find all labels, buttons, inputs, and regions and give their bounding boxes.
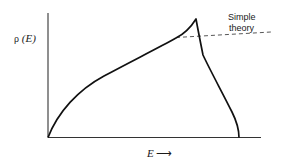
annotation-line-1: Simple	[228, 12, 256, 23]
energy-variable: E	[147, 147, 154, 159]
rho-argument: (E)	[22, 32, 36, 44]
density-curve	[48, 19, 239, 138]
simple-theory-annotation: Simple theory	[228, 12, 256, 34]
arrow-right-icon: ⟶	[156, 147, 172, 159]
y-axis-label: ρ (E)	[14, 33, 36, 44]
rho-symbol: ρ	[14, 33, 19, 44]
annotation-line-2: theory	[228, 23, 256, 34]
simple-theory-dashed-line	[176, 32, 271, 38]
x-axis-label: E ⟶	[147, 148, 172, 159]
density-of-states-diagram: ρ (E) Simple theory E ⟶	[0, 0, 284, 164]
